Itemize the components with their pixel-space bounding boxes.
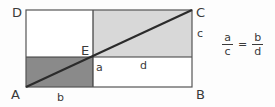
segment-label-d: d bbox=[140, 60, 147, 71]
segment-label-b: b bbox=[57, 92, 64, 103]
fraction-numerator-a: a bbox=[224, 32, 231, 44]
vertex-label-D: D bbox=[12, 6, 22, 19]
equals-sign: = bbox=[237, 38, 248, 51]
proportion-formula: a c = b d bbox=[222, 32, 263, 57]
fraction-a-over-c: a c bbox=[222, 32, 233, 57]
fraction-denominator-d: d bbox=[254, 45, 261, 57]
fraction-numerator-b: b bbox=[254, 32, 261, 44]
segment-label-c: c bbox=[197, 28, 203, 39]
fraction-denominator-c: c bbox=[224, 45, 230, 57]
vertex-label-E: E bbox=[81, 44, 89, 57]
vertex-label-B: B bbox=[196, 88, 205, 101]
fraction-b-over-d: b d bbox=[252, 32, 263, 57]
vertex-label-C: C bbox=[196, 6, 205, 19]
segment-label-a: a bbox=[96, 62, 103, 73]
vertex-label-A: A bbox=[11, 88, 20, 101]
